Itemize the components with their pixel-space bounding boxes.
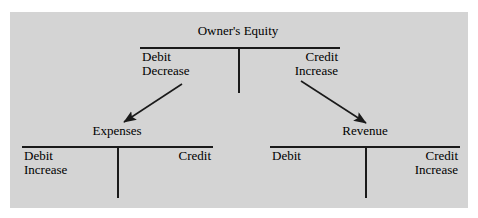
owners-equity-credit-effect: Increase: [295, 64, 338, 78]
owners-equity-title: Owner's Equity: [198, 24, 279, 38]
expenses-credit-label: Credit: [179, 149, 212, 163]
owners-equity-debit-label: Debit: [142, 50, 171, 64]
owners-equity-credit-label: Credit: [306, 50, 339, 64]
expenses-title: Expenses: [92, 124, 141, 138]
revenue-credit-effect: Increase: [415, 163, 458, 177]
expenses-stem: [117, 146, 119, 198]
owners-equity-stem: [238, 47, 240, 93]
revenue-credit-label: Credit: [426, 149, 459, 163]
revenue-stem: [365, 146, 367, 198]
diagram-panel: Owner's Equity Debit Decrease Credit Inc…: [10, 12, 468, 208]
owners-equity-debit-effect: Decrease: [142, 64, 190, 78]
revenue-debit-label: Debit: [272, 149, 301, 163]
revenue-title: Revenue: [342, 124, 387, 138]
expenses-debit-label: Debit: [24, 149, 53, 163]
expenses-debit-effect: Increase: [24, 163, 67, 177]
